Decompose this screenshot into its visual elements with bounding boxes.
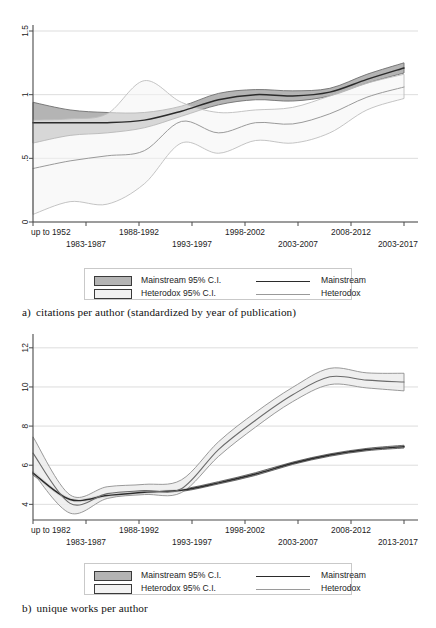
legend-line-heterodox (256, 584, 310, 594)
x-tick-label: 2008-2012 (331, 227, 371, 237)
legend-line-heterodox (256, 289, 310, 299)
legend-label-heterodox-ci: Heterodox 95% C.I. (141, 583, 249, 594)
chart-a-plot: 0.511.5up to 19521983-19871988-19921993-… (0, 0, 436, 265)
y-tick-label: 10 (20, 382, 30, 392)
legend-label-mainstream-ci: Mainstream 95% C.I. (141, 275, 249, 286)
y-tick-label: 0 (20, 219, 30, 224)
y-tick-label: .5 (20, 155, 30, 162)
legend-line-mainstream (256, 276, 310, 286)
caption-b-letter: b) (22, 602, 32, 614)
caption-a-text: citations per author (standardized by ye… (36, 306, 296, 318)
chart-a-legend: Mainstream 95% C.I. Mainstream Heterodox… (84, 268, 352, 300)
caption-b-text: unique works per author (37, 602, 148, 614)
x-tick-label: 1983-1987 (66, 537, 106, 547)
panel-b: 4681012up to 19821983-19871988-19921993-… (0, 322, 436, 628)
x-tick-label: 2013-2017 (378, 537, 418, 547)
x-tick-label: 1993-1997 (172, 239, 212, 249)
legend-swatch-mainstream-ci (94, 276, 132, 286)
x-tick-label: 1998-2002 (225, 227, 265, 237)
y-tick-label: 12 (20, 343, 30, 353)
legend-swatch-heterodox-ci (94, 584, 132, 594)
y-tick-label: 1.5 (20, 25, 30, 37)
chart-b-plot: 4681012up to 19821983-19871988-19921993-… (0, 322, 436, 562)
y-tick-label: 4 (20, 502, 30, 507)
chart-b-legend: Mainstream 95% C.I. Mainstream Heterodox… (84, 563, 352, 595)
legend-label-mainstream-ci: Mainstream 95% C.I. (141, 570, 249, 581)
y-tick-label: 8 (20, 423, 30, 428)
x-tick-label: 2003-2007 (278, 239, 318, 249)
figure-container: 0.511.5up to 19521983-19871988-19921993-… (0, 0, 436, 628)
legend-line-mainstream (256, 571, 310, 581)
legend-label-heterodox: Heterodox (321, 583, 366, 594)
legend-swatch-heterodox-ci (94, 289, 132, 299)
x-tick-label: 2003-2007 (278, 537, 318, 547)
caption-a: a)citations per author (standardized by … (22, 306, 296, 318)
caption-b: b)unique works per author (22, 602, 148, 614)
x-tick-label: 1988-1992 (119, 227, 159, 237)
x-tick-label: up to 1952 (31, 227, 71, 237)
x-tick-label: 1983-1987 (66, 239, 106, 249)
y-tick-label: 6 (20, 463, 30, 468)
legend-label-heterodox: Heterodox (321, 288, 366, 299)
y-tick-label: 1 (20, 92, 30, 97)
x-tick-label: 1993-1997 (172, 537, 212, 547)
x-tick-label: 2008-2012 (331, 525, 371, 535)
panel-a: 0.511.5up to 19521983-19871988-19921993-… (0, 0, 436, 320)
caption-a-letter: a) (22, 306, 31, 318)
x-tick-label: 1998-2002 (225, 525, 265, 535)
x-tick-label: 2003-2017 (378, 239, 418, 249)
legend-label-mainstream: Mainstream (321, 570, 366, 581)
legend-label-mainstream: Mainstream (321, 275, 366, 286)
legend-swatch-mainstream-ci (94, 571, 132, 581)
x-tick-label: 1988-1992 (119, 525, 159, 535)
legend-label-heterodox-ci: Heterodox 95% C.I. (141, 288, 249, 299)
x-tick-label: up to 1982 (31, 525, 71, 535)
